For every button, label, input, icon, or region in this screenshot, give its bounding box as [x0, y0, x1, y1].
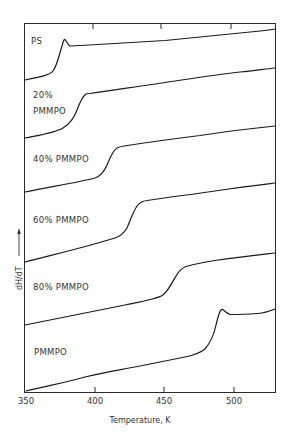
x-tick-label-400: 400: [87, 396, 103, 406]
label-80-pmmpo: 80% PMMPO: [33, 282, 89, 292]
x-axis-label: Temperature, K: [108, 416, 171, 425]
dsc-chart: 350 400 450 500 Temperature, K dH/dT PS …: [0, 0, 294, 447]
label-ps: PS: [31, 36, 42, 46]
label-40-pmmpo: 40% PMMPO: [33, 154, 89, 164]
x-axis-ticks-top: [93, 24, 231, 29]
plot-frame: [25, 24, 276, 393]
x-tick-label-350: 350: [18, 396, 34, 406]
y-axis-label-group: dH/dT: [15, 228, 24, 290]
x-tick-label-450: 450: [156, 396, 172, 406]
label-20-pmmpo-line1: 20%: [33, 90, 53, 100]
y-axis-arrowhead-icon: [17, 228, 21, 234]
label-20-pmmpo-line2: PMMPO: [33, 106, 66, 116]
label-pmmpo: PMMPO: [34, 347, 67, 357]
label-60-pmmpo: 60% PMMPO: [33, 215, 89, 225]
curve-20-pmmpo: [25, 68, 275, 138]
x-tick-label-500: 500: [226, 396, 242, 406]
y-axis-label: dH/dT: [15, 266, 24, 290]
x-axis-ticks-bottom: [95, 387, 234, 392]
